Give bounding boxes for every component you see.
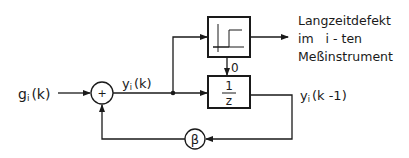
block-diagram: gi(k) + yi(k) Langzeitdefekt im i - ten … <box>0 0 409 158</box>
plus-sign: + <box>97 87 106 100</box>
delay-numerator: 1 <box>225 79 233 93</box>
output-description-line-1: Langzeitdefekt <box>298 13 391 28</box>
threshold-block <box>208 17 250 57</box>
delay-denominator: z <box>226 94 232 108</box>
beta-symbol: β <box>191 132 199 147</box>
delay-output-label: yi(k -1) <box>300 88 347 104</box>
input-label: gi(k) <box>18 86 50 103</box>
threshold-input-arrow <box>173 37 207 93</box>
delay-block: 1 z <box>208 76 250 108</box>
reset-label: 0 <box>231 61 239 75</box>
output-description-line-3: Meßinstrument <box>298 49 393 64</box>
feedback-to-sum-arrow <box>102 105 185 139</box>
output-description: Langzeitdefekt im i - ten Meßinstrument <box>298 13 393 64</box>
summing-junction: + <box>91 82 113 104</box>
output-description-line-2: im i - ten <box>298 31 362 46</box>
sum-output-label: yi(k) <box>122 76 152 92</box>
feedback-gain: β <box>185 129 205 149</box>
